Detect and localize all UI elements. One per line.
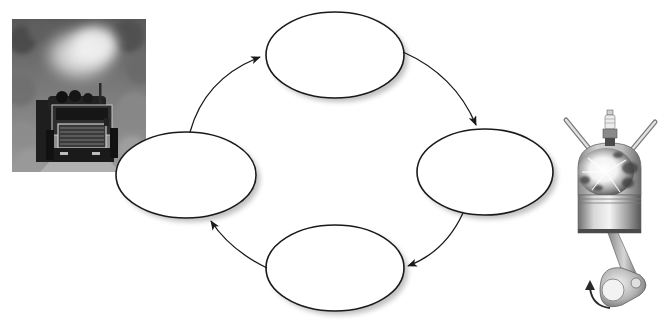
valve-right (630, 122, 655, 152)
arrow-bottom-to-left (211, 221, 267, 268)
valve-left (566, 120, 592, 152)
stage-left[interactable] (116, 132, 256, 218)
spark-plug (603, 110, 617, 146)
cycle-diagram (0, 0, 667, 320)
piston (578, 195, 641, 233)
arrow-right-to-bottom (408, 213, 463, 266)
arrow-top-to-right (403, 52, 476, 125)
crankshaft (600, 268, 646, 307)
stage-right[interactable] (417, 129, 553, 215)
arrow-left-to-top (190, 57, 260, 132)
engine-cylinder-illustration (566, 110, 655, 308)
stage-bottom[interactable] (266, 225, 404, 311)
stage-top[interactable] (266, 12, 404, 98)
